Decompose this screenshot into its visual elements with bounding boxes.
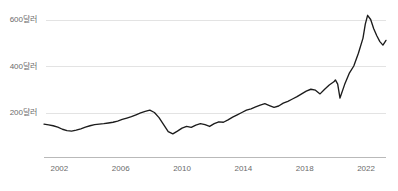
x-tick-label-2018: 2018	[296, 164, 314, 173]
line-chart-container: 200달러400달러600달러 200220062010201420182022	[0, 0, 398, 191]
x-tick-label-2022: 2022	[357, 164, 375, 173]
data-series-group	[44, 15, 386, 134]
y-axis-tick-labels: 200달러400달러600달러	[10, 15, 37, 117]
y-tick-label-400: 400달러	[10, 62, 37, 71]
price-line-series	[44, 15, 386, 134]
x-axis-tick-labels: 200220062010201420182022	[50, 164, 375, 173]
y-tick-label-200: 200달러	[10, 108, 37, 117]
x-tick-label-2006: 2006	[112, 164, 130, 173]
x-tick-label-2014: 2014	[234, 164, 252, 173]
chart-svg: 200달러400달러600달러 200220062010201420182022	[0, 0, 398, 191]
y-tick-label-600: 600달러	[10, 15, 37, 24]
gridlines-group	[46, 21, 386, 114]
x-tick-label-2002: 2002	[50, 164, 68, 173]
x-tick-label-2010: 2010	[173, 164, 191, 173]
